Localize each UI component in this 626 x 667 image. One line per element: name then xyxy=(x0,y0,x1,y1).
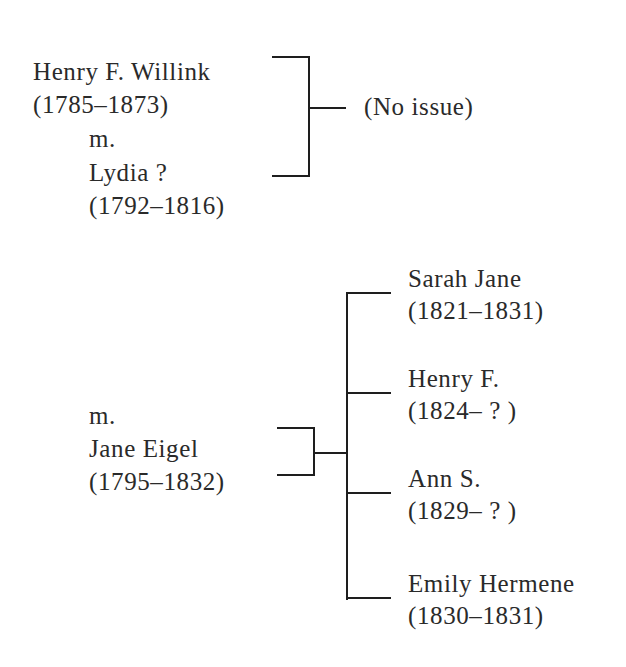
first-wife-name: Lydia ? xyxy=(89,160,167,185)
child-name: Henry F. xyxy=(408,366,500,391)
second-wife-name: Jane Eigel xyxy=(89,436,198,461)
child-dates: (1829– ? ) xyxy=(408,498,517,523)
child-branch-line-2 xyxy=(346,392,391,394)
marriage-label-1: m. xyxy=(89,126,116,151)
no-issue-label: (No issue) xyxy=(364,94,473,119)
children-connector-line xyxy=(313,452,348,454)
child-branch-line-4 xyxy=(346,597,391,599)
child-name: Ann S. xyxy=(408,466,481,491)
child-dates: (1824– ? ) xyxy=(408,398,517,423)
child-name: Sarah Jane xyxy=(408,266,522,291)
child-branch-line-1 xyxy=(346,292,391,294)
issue-connector-line xyxy=(308,107,346,109)
child-name: Emily Hermene xyxy=(408,571,575,596)
small-bracket-bottom-line xyxy=(277,474,315,476)
second-wife-dates: (1795–1832) xyxy=(89,469,225,494)
children-trunk-line xyxy=(346,292,348,600)
first-wife-dates: (1792–1816) xyxy=(89,193,225,218)
husband-dates: (1785–1873) xyxy=(33,92,169,117)
child-dates: (1830–1831) xyxy=(408,603,544,628)
child-dates: (1821–1831) xyxy=(408,298,544,323)
small-bracket-top-line xyxy=(277,427,315,429)
husband-name: Henry F. Willink xyxy=(33,59,211,84)
bracket-vertical-line xyxy=(308,56,310,177)
marriage-label-2: m. xyxy=(89,403,116,428)
bracket-top-line xyxy=(272,56,310,58)
bracket-bottom-line xyxy=(272,175,310,177)
child-branch-line-3 xyxy=(346,492,391,494)
